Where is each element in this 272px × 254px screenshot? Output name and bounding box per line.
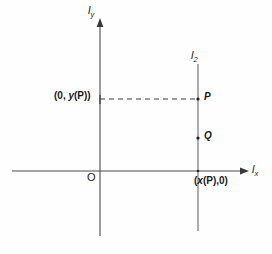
y-coordinate-label-open: (0, [54, 90, 68, 101]
y-axis-arrowhead [97, 18, 104, 27]
x-axis-arrowhead [240, 168, 249, 175]
y-coordinate-label: (0, y(P)) [54, 91, 91, 101]
point-p-label: P [204, 92, 211, 102]
line-l2-label: l2 [191, 50, 198, 64]
y-axis-label-subscript: y [90, 10, 94, 19]
origin-label: O [87, 172, 96, 183]
x-coordinate-label: (x(P),0) [194, 176, 228, 186]
x-axis-label: lx [252, 164, 258, 178]
y-coordinate-label-close: (P)) [74, 90, 91, 101]
intersection-marker [197, 170, 200, 173]
y-axis-label: ly [88, 5, 94, 19]
x-axis-label-subscript: x [254, 169, 258, 178]
point-p-marker [196, 97, 199, 100]
geometry-figure: ly lx l2 P Q O (0, y(P)) (x(P),0) [0, 0, 272, 254]
figure-drawing-canvas [0, 0, 272, 254]
x-coordinate-label-close: (P),0) [203, 175, 228, 186]
point-q-marker [196, 136, 199, 139]
line-l2-label-subscript: 2 [193, 55, 197, 64]
point-q-label: Q [204, 131, 212, 141]
